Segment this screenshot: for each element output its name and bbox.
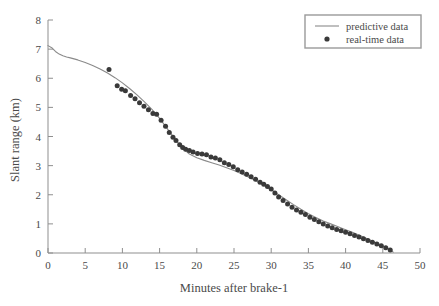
data-point (159, 118, 164, 123)
data-point (321, 221, 326, 226)
data-point (235, 167, 240, 172)
plot-axes (48, 20, 420, 253)
y-axis-tick-labels: 012345678 (36, 14, 42, 259)
data-point (272, 191, 277, 196)
data-point (107, 67, 112, 72)
data-point (339, 228, 344, 233)
data-point (137, 100, 142, 105)
x-tick-label: 25 (229, 259, 241, 271)
chart-figure: 012345678 05101520253035404550 Minutes a… (0, 0, 439, 306)
y-tick-label: 5 (36, 101, 42, 113)
y-tick-label: 3 (36, 160, 42, 172)
y-axis-title: Slant range (km) (8, 98, 22, 182)
data-point (163, 124, 168, 129)
data-point (133, 96, 138, 101)
data-point (365, 238, 370, 243)
data-point (361, 236, 366, 241)
data-point (226, 162, 231, 167)
data-point (388, 248, 393, 253)
data-point (348, 231, 353, 236)
y-tick-label: 2 (36, 189, 42, 201)
data-point (213, 156, 218, 161)
data-point (115, 83, 120, 88)
y-axis-ticks (48, 20, 53, 253)
y-tick-label: 8 (36, 14, 42, 26)
data-point (285, 202, 290, 207)
data-point (249, 174, 254, 179)
data-point (370, 240, 375, 245)
data-point (334, 227, 339, 232)
x-tick-label: 5 (82, 259, 88, 271)
data-point (231, 164, 236, 169)
data-point (343, 230, 348, 235)
data-point (290, 205, 295, 210)
data-point (123, 88, 128, 93)
data-point (294, 207, 299, 212)
x-tick-label: 40 (340, 259, 352, 271)
data-point (325, 223, 330, 228)
data-point (253, 177, 258, 182)
y-tick-label: 7 (36, 43, 42, 55)
legend-label-predictive: predictive data (346, 21, 408, 32)
data-point (316, 219, 321, 224)
data-point (383, 245, 388, 250)
data-point (356, 234, 361, 239)
data-point (374, 241, 379, 246)
data-point (330, 225, 335, 230)
data-point (173, 138, 178, 143)
chart-legend: predictive data real-time data (305, 15, 421, 48)
predictive-data-line (48, 46, 393, 253)
x-axis-tick-labels: 05101520253035404550 (45, 259, 426, 271)
y-tick-label: 1 (36, 218, 42, 230)
data-point (128, 93, 133, 98)
data-point (200, 151, 205, 156)
x-tick-label: 50 (415, 259, 427, 271)
legend-label-realtime: real-time data (346, 34, 404, 45)
legend-dot-swatch (324, 36, 329, 41)
data-point (191, 149, 196, 154)
data-point (312, 217, 317, 222)
data-point (269, 186, 274, 191)
x-tick-label: 10 (117, 259, 129, 271)
data-point (352, 233, 357, 238)
x-tick-label: 30 (266, 259, 278, 271)
data-point (281, 198, 286, 203)
slant-range-plot: 012345678 05101520253035404550 Minutes a… (0, 0, 439, 306)
y-tick-label: 6 (36, 72, 42, 84)
y-tick-label: 4 (36, 131, 42, 143)
x-tick-label: 45 (377, 259, 389, 271)
y-tick-label: 0 (36, 247, 42, 259)
data-point (222, 160, 227, 165)
data-point (298, 210, 303, 215)
data-point (303, 212, 308, 217)
x-tick-label: 20 (191, 259, 203, 271)
x-axis-ticks (48, 248, 420, 253)
data-point (379, 243, 384, 248)
data-point (141, 104, 146, 109)
data-point (244, 172, 249, 177)
data-point (217, 157, 222, 162)
data-point (307, 215, 312, 220)
data-point (276, 195, 281, 200)
data-point (208, 154, 213, 159)
x-tick-label: 35 (303, 259, 315, 271)
data-point (204, 152, 209, 157)
x-tick-label: 0 (45, 259, 51, 271)
data-point (167, 130, 172, 135)
data-point (154, 112, 159, 117)
data-point (146, 107, 151, 112)
x-axis-title: Minutes after brake-1 (180, 281, 288, 295)
real-time-data-points (107, 67, 393, 253)
data-point (240, 170, 245, 175)
x-tick-label: 15 (154, 259, 166, 271)
data-point (195, 151, 200, 156)
